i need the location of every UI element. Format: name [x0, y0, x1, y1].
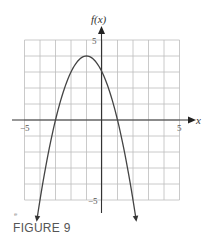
curve-arrow-right-icon: [133, 215, 139, 221]
y-axis-label: f(x): [91, 13, 107, 26]
figure-caption: FIGURE 9: [13, 221, 71, 235]
x-axis-arrow-icon: [188, 117, 196, 124]
y-max-label: 5: [92, 36, 97, 46]
y-min-label: −5: [88, 196, 98, 206]
x-axis-label: x: [195, 114, 201, 126]
y-axis-arrow-icon: [98, 26, 105, 34]
x-min-label: −5: [20, 123, 30, 133]
function-graph: f(x) x −5 5 5 −5: [0, 0, 208, 240]
logo-mark: e: [14, 211, 17, 217]
x-max-label: 5: [177, 123, 182, 133]
